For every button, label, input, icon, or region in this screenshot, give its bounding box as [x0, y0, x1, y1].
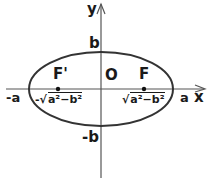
vertex-right-label: a: [180, 91, 189, 104]
sqrt-icon: √: [40, 93, 47, 106]
sqrt-icon: √: [122, 93, 129, 106]
focus-right-point: [142, 87, 146, 91]
focus-left-coordinate: -√a²−b²: [35, 92, 82, 105]
radicand: a²−b²: [48, 92, 82, 105]
vertex-left-label: -a: [6, 91, 20, 104]
x-axis-label: x: [194, 90, 204, 105]
focus-left-point: [56, 87, 60, 91]
ellipse-diagram: y x b -b -a a O F' F -√a²−b² √a²−b²: [0, 0, 212, 178]
vertex-bottom-label: -b: [82, 130, 99, 145]
focus-left-label: F': [53, 67, 68, 82]
radicand: a²−b²: [130, 92, 164, 105]
focus-right-label: F: [139, 67, 149, 82]
origin-label: O: [105, 68, 118, 83]
vertex-top-label: b: [89, 36, 100, 51]
diagram-graphics: [0, 0, 212, 178]
focus-right-coordinate: √a²−b²: [122, 92, 165, 105]
y-axis-label: y: [87, 2, 97, 17]
